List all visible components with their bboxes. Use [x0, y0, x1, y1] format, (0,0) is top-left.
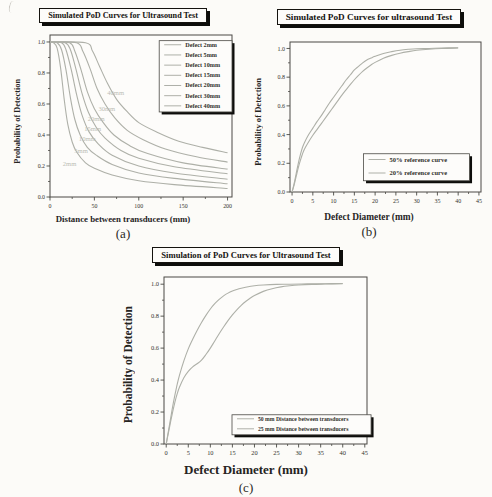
svg-text:0.6: 0.6 [37, 101, 44, 107]
svg-text:0.4: 0.4 [151, 376, 160, 383]
svg-text:Defect 30mm: Defect 30mm [185, 92, 221, 99]
svg-text:200: 200 [223, 203, 232, 209]
svg-text:0.2: 0.2 [278, 160, 286, 166]
chart-b-caption: (b) [361, 224, 376, 240]
svg-text:30: 30 [414, 198, 420, 204]
svg-text:Defect 10mm: Defect 10mm [185, 61, 221, 68]
chart-c-plot-row: Probability of Detection 051015202530354… [120, 270, 372, 460]
chart-a-plot: 0501001502000.00.20.40.60.81.040mm30mm20… [24, 28, 236, 214]
svg-text:0.2: 0.2 [37, 163, 44, 169]
chart-b-title: Simulated PoD Curves for ultrasound Test [277, 9, 462, 25]
svg-text:0: 0 [291, 198, 294, 204]
svg-text:40: 40 [340, 449, 346, 456]
svg-text:0.0: 0.0 [151, 440, 159, 447]
svg-text:5mm: 5mm [74, 147, 88, 154]
svg-text:45: 45 [362, 449, 368, 456]
svg-text:0.8: 0.8 [37, 70, 44, 76]
chart-c-ylabel: Probability of Detection [120, 306, 136, 423]
svg-text:30mm: 30mm [98, 105, 116, 112]
svg-text:30: 30 [295, 449, 301, 456]
svg-text:15: 15 [229, 449, 235, 456]
svg-text:50 mm Distance between transdu: 50 mm Distance between transducers [258, 416, 349, 422]
chart-a-title: Simulated PoD Curves for Ultrasound Test [39, 8, 207, 23]
svg-text:45: 45 [476, 198, 482, 204]
chart-b-ylabel: Probability of Detection [252, 78, 264, 166]
svg-text:0.8: 0.8 [278, 74, 286, 80]
svg-text:25 mm Distance between transdu: 25 mm Distance between transducers [258, 426, 349, 432]
svg-text:100: 100 [134, 203, 143, 209]
svg-text:20: 20 [372, 198, 378, 204]
svg-text:10: 10 [331, 198, 337, 204]
svg-text:35: 35 [317, 449, 323, 456]
chart-c-caption: (c) [239, 480, 253, 496]
svg-text:10mm: 10mm [78, 135, 96, 142]
svg-text:0.4: 0.4 [37, 132, 44, 138]
svg-text:0.8: 0.8 [151, 312, 159, 319]
bottom-row: Simulation of PoD Curves for Ultrasound … [0, 242, 492, 496]
svg-text:50% reference curve: 50% reference curve [390, 156, 448, 163]
svg-text:20% reference curve: 20% reference curve [390, 169, 448, 176]
svg-text:Defect 40mm: Defect 40mm [185, 102, 221, 109]
svg-text:20: 20 [251, 449, 257, 456]
chart-a-caption: (a) [116, 226, 130, 242]
chart-b-panel: Simulated PoD Curves for ultrasound Test… [246, 0, 492, 242]
chart-c-plot: 0510152025303540450.00.20.40.60.81.050 m… [136, 270, 372, 460]
svg-text:10: 10 [207, 449, 213, 456]
chart-a-plot-row: Probability of Detection 0501001502000.0… [11, 28, 236, 214]
chart-c-xlabel: Defect Diameter (mm) [184, 462, 308, 478]
top-row: Simulated PoD Curves for Ultrasound Test… [0, 0, 492, 242]
svg-text:5: 5 [187, 449, 190, 456]
svg-text:0: 0 [48, 203, 51, 209]
svg-text:2mm: 2mm [62, 160, 76, 167]
svg-text:Defect 5mm: Defect 5mm [185, 51, 218, 58]
chart-a-panel: Simulated PoD Curves for Ultrasound Test… [0, 0, 246, 242]
svg-text:0.0: 0.0 [278, 189, 286, 195]
svg-text:0: 0 [165, 449, 168, 456]
svg-text:5: 5 [311, 198, 314, 204]
svg-text:25: 25 [273, 449, 279, 456]
chart-b-xlabel: Defect Diameter (mm) [324, 212, 413, 222]
chart-a-ylabel: Probability of Detection [11, 79, 24, 164]
chart-b-plot-row: Probability of Detection 051015202530354… [252, 36, 486, 208]
svg-text:20mm: 20mm [87, 115, 105, 122]
chart-b-plot: 0510152025303540450.00.20.40.60.81.050% … [264, 36, 486, 208]
svg-text:50: 50 [91, 203, 97, 209]
svg-text:0.6: 0.6 [278, 103, 286, 109]
chart-c-panel: Simulation of PoD Curves for Ultrasound … [96, 242, 396, 496]
svg-text:0.6: 0.6 [151, 344, 159, 351]
svg-text:Defect 20mm: Defect 20mm [185, 81, 221, 88]
figure-page: Simulated PoD Curves for Ultrasound Test… [0, 0, 492, 497]
svg-text:15mm: 15mm [84, 125, 102, 132]
svg-text:1.0: 1.0 [278, 46, 286, 52]
svg-text:0.2: 0.2 [151, 408, 159, 415]
svg-text:0.4: 0.4 [278, 132, 286, 138]
svg-text:25: 25 [393, 198, 399, 204]
svg-text:150: 150 [178, 203, 187, 209]
chart-a-xlabel: Distance between transducers (mm) [56, 214, 191, 224]
svg-text:0.0: 0.0 [37, 194, 44, 200]
svg-text:35: 35 [434, 198, 440, 204]
svg-text:1.0: 1.0 [37, 39, 44, 45]
svg-text:Defect 15mm: Defect 15mm [185, 71, 221, 78]
svg-text:15: 15 [351, 198, 357, 204]
chart-c-title: Simulation of PoD Curves for Ultrasound … [152, 247, 339, 263]
svg-text:1.0: 1.0 [151, 280, 159, 287]
svg-text:40: 40 [455, 198, 461, 204]
svg-text:40mm: 40mm [107, 89, 125, 96]
svg-text:Defect 2mm: Defect 2mm [185, 41, 218, 48]
